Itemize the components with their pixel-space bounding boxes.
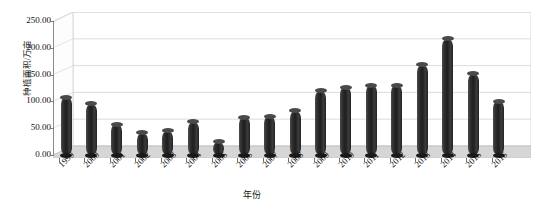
x-tick-label-2008: 2008	[286, 150, 305, 169]
x-tick-label-2004: 2004	[184, 150, 203, 169]
x-tick-label-2006: 2006	[235, 150, 254, 169]
x-tick-label-2005: 2005	[210, 150, 229, 169]
x-tick-label-2007: 2007	[261, 150, 280, 169]
chart-container: 0.0050.00100.00150.00200.00250.00 种植面积/万…	[0, 0, 535, 208]
x-tick-label-2012: 2012	[388, 150, 407, 169]
x-tick-label-2002: 2002	[133, 150, 152, 169]
x-tick-label-2000: 2000	[82, 150, 101, 169]
x-tick-label-2009: 2009	[312, 150, 331, 169]
x-tick-label-2003: 2003	[159, 150, 178, 169]
x-tick-label-1999: 1999	[57, 150, 76, 169]
x-tick-label-2015: 2015	[464, 150, 483, 169]
x-tick-label-2001: 2001	[108, 150, 127, 169]
x-tick-label-2011: 2011	[362, 151, 381, 170]
x-axis-labels: 1999200020012002200320042005200620072008…	[0, 0, 535, 208]
x-tick-label-2016: 2016	[490, 150, 509, 169]
x-tick-label-2010: 2010	[337, 150, 356, 169]
x-axis-title: 年份	[243, 188, 261, 201]
x-tick-label-2014: 2014	[439, 150, 458, 169]
x-tick-label-2013: 2013	[413, 150, 432, 169]
